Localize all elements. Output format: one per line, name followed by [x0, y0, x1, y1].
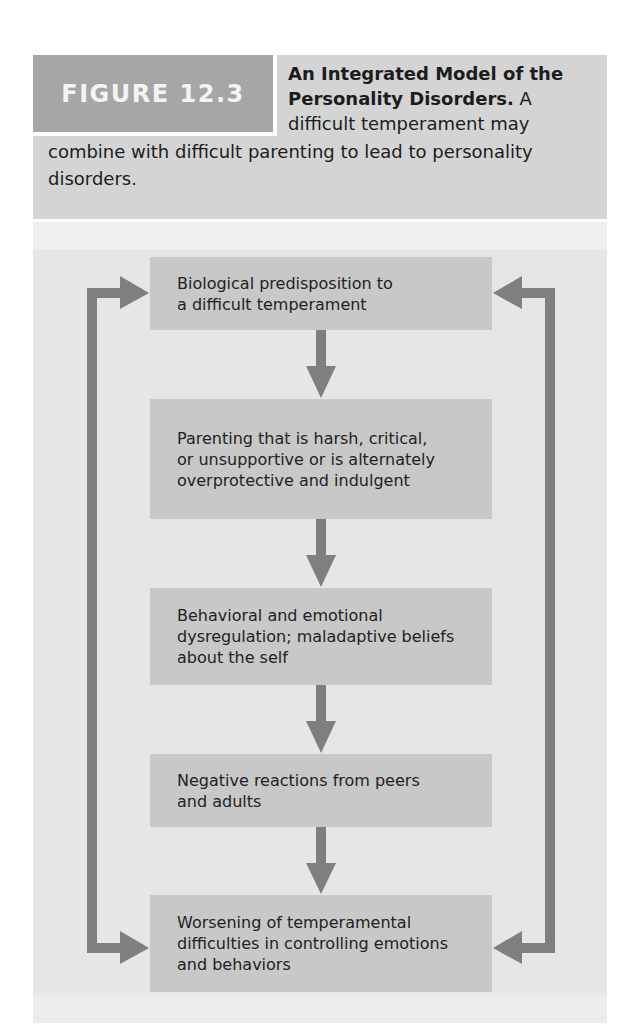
figure-label: FIGURE 12.3: [33, 55, 273, 132]
node-text-line: difficulties in controlling emotions: [177, 933, 448, 954]
caption-body-lead: A: [514, 88, 532, 109]
node-text-line: or unsupportive or is alternately: [177, 449, 435, 470]
caption-body-line3: difficult temperament may: [288, 111, 530, 136]
caption-title-line1: An Integrated Model of the: [288, 61, 563, 86]
node-text-line: Negative reactions from peers: [177, 770, 420, 791]
node-text-line: dysregulation; maladaptive beliefs: [177, 626, 454, 647]
diagram-top-strip: [33, 222, 607, 250]
caption-title-bold: Personality Disorders.: [288, 88, 514, 109]
caption-title-line2: Personality Disorders. A: [288, 86, 532, 111]
node-text-line: and behaviors: [177, 954, 448, 975]
figure-label-frame: FIGURE 12.3: [33, 55, 277, 136]
node-text-line: Worsening of temperamental: [177, 912, 448, 933]
node-parenting: Parenting that is harsh, critical, or un…: [150, 399, 492, 519]
diagram-bottom-strip: [33, 995, 607, 1023]
node-text-line: about the self: [177, 647, 454, 668]
node-text-line: Biological predisposition to: [177, 273, 393, 294]
node-text-line: Parenting that is harsh, critical,: [177, 428, 435, 449]
node-biological-predisposition: Biological predisposition to a difficult…: [150, 257, 492, 330]
node-negative-reactions: Negative reactions from peers and adults: [150, 754, 492, 827]
caption-body-line5: disorders.: [48, 166, 137, 191]
node-worsening-temperament: Worsening of temperamental difficulties …: [150, 895, 492, 992]
node-text-line: Behavioral and emotional: [177, 605, 454, 626]
node-text-line: a difficult temperament: [177, 294, 393, 315]
node-text-line: overprotective and indulgent: [177, 470, 435, 491]
node-dysregulation: Behavioral and emotional dysregulation; …: [150, 588, 492, 685]
node-text-line: and adults: [177, 791, 420, 812]
caption-body-line4: combine with difficult parenting to lead…: [48, 139, 533, 164]
